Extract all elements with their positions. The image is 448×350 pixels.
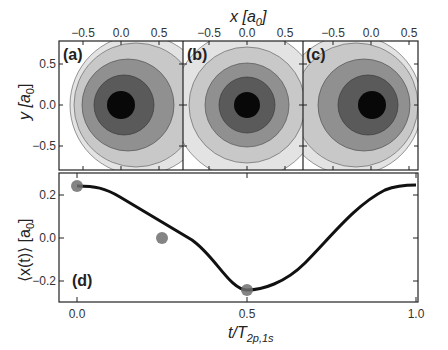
svg-text:−0.2: −0.2 (32, 274, 56, 288)
top-y-tick-labels: 0.5 0.0 −0.5 (32, 57, 56, 153)
svg-text:−0.5: −0.5 (71, 26, 95, 40)
svg-text:−0.5: −0.5 (32, 139, 56, 153)
svg-text:−0.5: −0.5 (321, 26, 345, 40)
panel-label-a: (a) (63, 46, 83, 63)
y-axis-label-bottom: ⟨x(t)⟩ [a0] (16, 219, 36, 282)
svg-text:0.5: 0.5 (39, 57, 56, 71)
svg-text:0.0: 0.0 (39, 98, 56, 112)
marker-t025 (156, 232, 168, 244)
svg-text:0.5: 0.5 (151, 26, 168, 40)
svg-text:0.5: 0.5 (401, 26, 418, 40)
panel-label-d: (d) (72, 272, 92, 289)
svg-text:0.2: 0.2 (39, 188, 56, 202)
marker-t0 (71, 180, 83, 192)
svg-text:0.0: 0.0 (363, 26, 380, 40)
svg-text:0.5: 0.5 (277, 26, 294, 40)
figure: −0.5 0.0 0.5 −0.5 0.0 0.5 −0.5 0.0 0.5 0… (0, 0, 448, 350)
svg-text:0.5: 0.5 (239, 307, 256, 321)
line-panel-d (59, 173, 418, 302)
svg-text:0.0: 0.0 (113, 26, 130, 40)
svg-text:0.0: 0.0 (39, 231, 56, 245)
x-axis-label-top: x [a0] (229, 8, 267, 28)
y-axis-label-top: y [a0] (16, 84, 36, 121)
svg-text:1.0: 1.0 (408, 307, 425, 321)
panel-label-b: (b) (187, 46, 207, 63)
svg-text:0.0: 0.0 (239, 26, 256, 40)
panel-label-c: (c) (306, 46, 326, 63)
svg-text:0.0: 0.0 (69, 307, 86, 321)
top-x-tick-labels: −0.5 0.0 0.5 −0.5 0.0 0.5 −0.5 0.0 0.5 (71, 26, 418, 40)
x-axis-label-bottom: t/T2p,1s (228, 324, 274, 344)
svg-text:−0.5: −0.5 (197, 26, 221, 40)
marker-t05 (241, 284, 253, 296)
